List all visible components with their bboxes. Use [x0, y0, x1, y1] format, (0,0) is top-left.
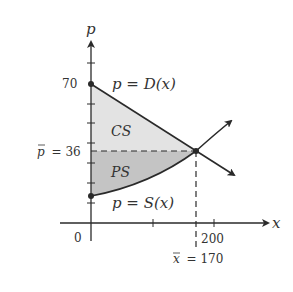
- equilibrium-point: [193, 148, 199, 154]
- cs-label: CS: [111, 123, 131, 139]
- x-tick-200-label: 200: [201, 232, 224, 246]
- ps-label: PS: [110, 164, 130, 180]
- equilibrium-quantity-label: x = 170: [173, 252, 223, 266]
- demand-curve-label: p = D(x): [112, 75, 176, 93]
- producer-surplus-region: [91, 151, 196, 196]
- x-axis-label: x: [272, 214, 281, 232]
- demand-intercept-point: [88, 81, 94, 87]
- equilibrium-price-label: p = 36: [37, 145, 81, 159]
- supply-intercept-point: [88, 193, 94, 199]
- supply-curve-label: p = S(x): [112, 194, 174, 212]
- y-tick-70-label: 70: [62, 77, 77, 91]
- origin-label: 0: [74, 231, 82, 245]
- surplus-diagram: p x 70 0 200 p = 36 x = 170 p = D(x) p =…: [0, 0, 293, 292]
- y-axis-label: p: [86, 20, 96, 38]
